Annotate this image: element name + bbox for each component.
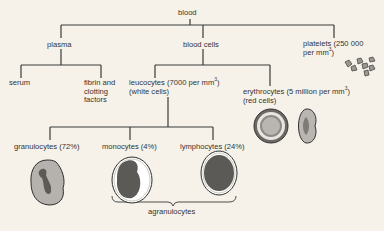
fibrin-line3: factors [84, 96, 115, 105]
node-plasma: plasma [47, 41, 71, 50]
monocyte-icon [112, 157, 152, 203]
node-lymphocytes: lymphocytes (24%) [180, 143, 245, 152]
platelets-line2: per mm3) [303, 49, 363, 58]
erythrocytes-close: ) [347, 87, 350, 96]
node-serum: serum [9, 79, 30, 88]
leucocytes-close: ) [217, 78, 220, 87]
node-monocytes: monocytes (4%) [102, 143, 157, 152]
red-cell-side-icon [299, 109, 316, 143]
leucocytes-line2: (white cells) [129, 88, 220, 97]
node-blood-cells: blood cells [183, 41, 219, 50]
tree-connectors [0, 0, 384, 231]
node-agranulocytes: agranulocytes [148, 208, 195, 217]
platelets-icon [345, 57, 375, 76]
platelets-unit: per mm [303, 48, 329, 57]
blood-composition-diagram: blood plasma blood cells platelets (250 … [0, 0, 384, 231]
lymphocyte-icon [201, 151, 237, 195]
node-erythrocytes: erythrocytes (5 million per mm3) (red ce… [243, 88, 350, 105]
node-leucocytes: leucocytes (7000 per mm3) (white cells) [129, 79, 220, 96]
leucocytes-text: leucocytes (7000 per mm [129, 78, 214, 87]
platelets-close: ) [332, 48, 335, 57]
erythrocytes-line2: (red cells) [243, 97, 350, 106]
erythrocytes-text: erythrocytes (5 million per mm [243, 87, 345, 96]
node-fibrin: fibrin and clotting factors [84, 79, 115, 105]
node-platelets: platelets (250 000 per mm3) [303, 40, 363, 57]
red-cell-front-icon [254, 109, 288, 143]
node-blood: blood [178, 9, 197, 18]
granulocyte-icon [31, 160, 64, 205]
node-granulocytes: granulocytes (72%) [14, 143, 79, 152]
